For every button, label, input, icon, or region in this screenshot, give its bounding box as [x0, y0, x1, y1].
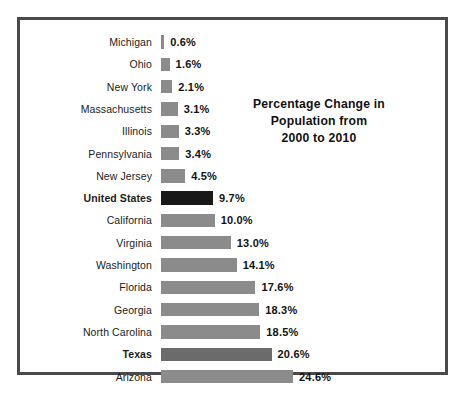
bar: [161, 325, 260, 338]
bar-category-label: United States: [20, 187, 152, 209]
bar: [161, 281, 255, 294]
bar-value-label: 14.1%: [243, 254, 275, 276]
bar-value-label: 24.6%: [299, 366, 331, 388]
chart-title-line-1: Percentage Change in: [216, 96, 422, 113]
bar-category-label: Georgia: [20, 299, 152, 321]
bar-category-label: Virginia: [20, 232, 152, 254]
bar-category-label: New Jersey: [20, 165, 152, 187]
bar-value-label: 3.3%: [185, 120, 211, 142]
bar-row: Virginia13.0%: [20, 232, 445, 254]
bar-row: Georgia18.3%: [20, 299, 445, 321]
bar: [161, 125, 179, 138]
bar-row: Arizona24.6%: [20, 366, 445, 388]
bar-value-label: 3.1%: [184, 98, 210, 120]
bar: [161, 348, 272, 361]
bar-row: Texas20.6%: [20, 343, 445, 365]
bar-row: New York2.1%: [20, 76, 445, 98]
chart-title-line-3: 2000 to 2010: [216, 130, 422, 147]
bar-value-label: 17.6%: [261, 276, 293, 298]
bar-category-label: Pennsylvania: [20, 143, 152, 165]
bar: [161, 80, 172, 93]
bar: [161, 370, 293, 383]
bar-row: Washington14.1%: [20, 254, 445, 276]
bar-value-label: 18.5%: [266, 321, 298, 343]
chart-frame: Michigan0.6%Ohio1.6%New York2.1%Massachu…: [17, 17, 448, 375]
bar-value-label: 10.0%: [221, 209, 253, 231]
bar: [161, 236, 231, 249]
bar-category-label: Arizona: [20, 366, 152, 388]
bar-chart-plot-area: Michigan0.6%Ohio1.6%New York2.1%Massachu…: [20, 20, 445, 372]
bar-category-label: Massachusetts: [20, 98, 152, 120]
bar-category-label: Florida: [20, 276, 152, 298]
bar-row: Michigan0.6%: [20, 31, 445, 53]
chart-title: Percentage Change in Population from 200…: [216, 96, 422, 147]
bar-category-label: California: [20, 209, 152, 231]
bar-value-label: 13.0%: [237, 232, 269, 254]
bar-value-label: 3.4%: [185, 143, 211, 165]
bar: [161, 35, 164, 48]
bar: [161, 102, 178, 115]
bar-value-label: 18.3%: [265, 299, 297, 321]
bar: [161, 214, 215, 227]
bar-row: North Carolina18.5%: [20, 321, 445, 343]
bar-value-label: 2.1%: [178, 76, 204, 98]
bar-row: United States9.7%: [20, 187, 445, 209]
bar-row: Florida17.6%: [20, 276, 445, 298]
bar-value-label: 9.7%: [219, 187, 245, 209]
bar: [161, 58, 170, 71]
bar-category-label: New York: [20, 76, 152, 98]
bar-value-label: 1.6%: [176, 53, 202, 75]
bar: [161, 191, 213, 204]
bar: [161, 258, 237, 271]
bar-value-label: 20.6%: [278, 343, 310, 365]
bar-category-label: Texas: [20, 343, 152, 365]
bar-category-label: Ohio: [20, 53, 152, 75]
bar: [161, 169, 185, 182]
bar-value-label: 0.6%: [170, 31, 196, 53]
bar-category-label: Michigan: [20, 31, 152, 53]
bar-category-label: Washington: [20, 254, 152, 276]
bar-row: Ohio1.6%: [20, 53, 445, 75]
bar-row: New Jersey4.5%: [20, 165, 445, 187]
bar-category-label: Illinois: [20, 120, 152, 142]
bar: [161, 303, 259, 316]
bar: [161, 147, 179, 160]
chart-title-line-2: Population from: [216, 113, 422, 130]
bar-value-label: 4.5%: [191, 165, 217, 187]
bar-category-label: North Carolina: [20, 321, 152, 343]
bar-row: California10.0%: [20, 209, 445, 231]
